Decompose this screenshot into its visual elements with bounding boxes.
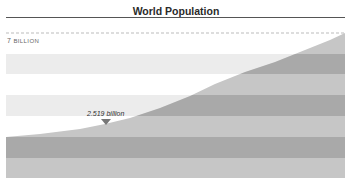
- reference-line-label: 7 BILLION: [7, 37, 39, 44]
- population-area-chart: [0, 0, 352, 188]
- annotation-label: 2.519 billion: [87, 110, 124, 117]
